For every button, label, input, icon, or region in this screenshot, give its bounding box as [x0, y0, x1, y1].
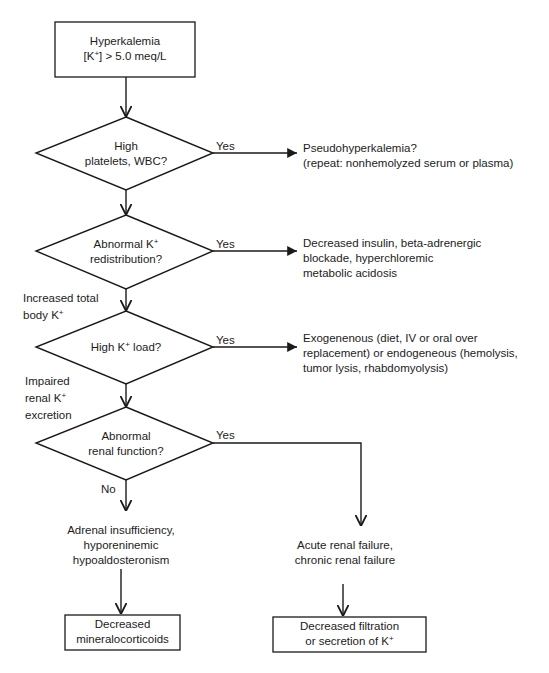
decision-4-text: Abnormal renal function? — [56, 429, 196, 459]
decision-2-yes-outcome: Decreased insulin, beta-adrenergic block… — [303, 236, 481, 281]
decision-3-text: High K+ load? — [56, 340, 196, 355]
no-branch-cause: Adrenal insufficiency, hyporeninemic hyp… — [46, 523, 196, 568]
decision-2-text: Abnormal K+ redistribution? — [56, 237, 196, 267]
decision-1-yes-label: Yes — [216, 139, 235, 154]
yes-branch-cause: Acute renal failure, chronic renal failu… — [270, 538, 420, 568]
side-label-increased-total: Increased total body K+ — [23, 290, 98, 324]
side-label-impaired-renal: Impaired renal K+ excretion — [25, 373, 72, 424]
start-box-text: Hyperkalemia [K+] > 5.0 meq/L — [55, 34, 195, 64]
start-condition: [K+] > 5.0 meq/L — [55, 49, 195, 64]
decision-2-yes-label: Yes — [216, 237, 235, 252]
no-branch-result-text: Decreased mineralocorticoids — [65, 617, 180, 647]
decision-4-no-label: No — [101, 482, 116, 497]
decision-3-yes-label: Yes — [216, 333, 235, 348]
start-title: Hyperkalemia — [55, 34, 195, 49]
arrow-d4-yes — [213, 443, 361, 526]
yes-branch-result-text: Decreased filtration or secretion of K+ — [273, 619, 426, 649]
decision-1-text: High platelets, WBC? — [56, 139, 196, 169]
decision-3-yes-outcome: Exogenenous (diet, IV or oral over repla… — [303, 331, 518, 376]
decision-1-yes-outcome: Pseudohyperkalemia? (repeat: nonhemolyze… — [303, 141, 513, 171]
decision-4-yes-label: Yes — [216, 428, 235, 443]
